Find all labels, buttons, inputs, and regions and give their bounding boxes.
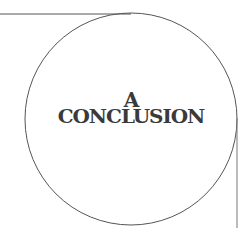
heading-line-2: CONCLUSION bbox=[0, 107, 248, 126]
